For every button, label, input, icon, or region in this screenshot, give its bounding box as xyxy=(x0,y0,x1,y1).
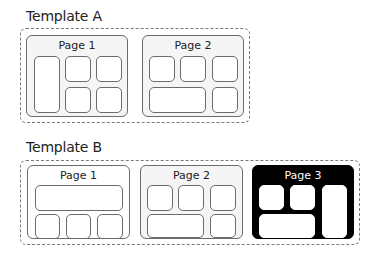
layout-slot xyxy=(212,87,238,113)
layout-slot xyxy=(147,185,173,211)
layout-slot xyxy=(180,56,206,82)
layout-slot xyxy=(97,214,123,239)
layout-slot-wide xyxy=(149,87,206,113)
layout-slot xyxy=(35,214,60,239)
page-label: Page 2 xyxy=(141,169,242,182)
layout-slot-tall xyxy=(322,185,347,238)
layout-slot xyxy=(178,185,204,211)
layout-slot xyxy=(259,185,284,210)
layout-slot xyxy=(66,214,91,239)
template-b-page-3-selected: Page 3 xyxy=(252,165,354,239)
page-label: Page 3 xyxy=(253,169,353,182)
layout-slot-tall xyxy=(34,56,60,113)
template-b-page-2: Page 2 xyxy=(140,165,243,239)
layout-slot-wide xyxy=(259,214,315,238)
template-b-title: Template B xyxy=(26,139,102,155)
template-a-page-1: Page 1 xyxy=(26,35,128,117)
layout-slot xyxy=(212,56,238,82)
page-label: Page 1 xyxy=(27,39,127,52)
layout-slot xyxy=(96,56,122,82)
template-b-page-1: Page 1 xyxy=(27,165,130,239)
layout-slot xyxy=(210,214,236,238)
layout-slot xyxy=(65,87,91,113)
template-a-title: Template A xyxy=(26,8,102,24)
page-label: Page 2 xyxy=(143,39,243,52)
layout-slot xyxy=(65,56,91,82)
layout-slot xyxy=(210,185,236,211)
layout-slot xyxy=(149,56,175,82)
layout-slot-wide xyxy=(35,185,123,211)
layout-slot-wide xyxy=(147,214,204,238)
page-label: Page 1 xyxy=(28,169,129,182)
layout-slot xyxy=(290,185,315,210)
template-a-page-2: Page 2 xyxy=(142,35,244,117)
layout-slot xyxy=(96,87,122,113)
